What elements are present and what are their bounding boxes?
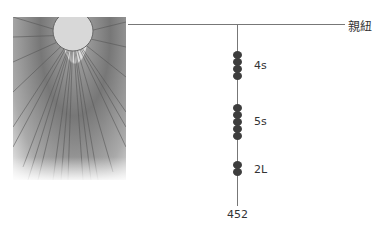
knot-bead <box>233 72 242 80</box>
khipu-photo <box>13 17 126 180</box>
total-value-label: 452 <box>227 208 248 221</box>
radiating-cords-image <box>13 17 126 180</box>
knot-group-label: 4s <box>254 59 267 72</box>
knot-bead <box>233 168 242 176</box>
knot-group-label: 2L <box>254 163 267 176</box>
knot-group-label: 5s <box>254 115 267 128</box>
primary-cord-label: 親紐 <box>348 17 372 34</box>
knot-bead <box>233 132 242 140</box>
